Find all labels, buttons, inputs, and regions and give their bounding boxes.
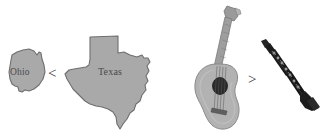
texas-label: Texas bbox=[98, 66, 122, 77]
texas-state-shape bbox=[60, 25, 160, 135]
ohio-label: Ohio bbox=[10, 67, 30, 77]
clarinet bbox=[258, 38, 324, 118]
clarinet-figure bbox=[258, 38, 324, 122]
comparison-scene: Ohio < Texas bbox=[0, 0, 324, 139]
greater-than-symbol: > bbox=[248, 72, 256, 87]
acoustic-guitar bbox=[186, 2, 258, 137]
texas-figure bbox=[60, 25, 160, 139]
less-than-symbol: < bbox=[48, 66, 56, 81]
